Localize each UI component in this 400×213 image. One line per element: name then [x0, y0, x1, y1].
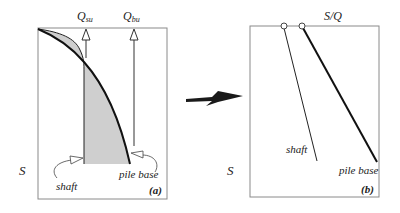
panel-b-tag: (b)	[361, 183, 374, 196]
panel-b: S/Q S shaft pile base (b)	[227, 9, 379, 197]
panel-a-axis-label: S	[19, 163, 26, 178]
shaft-callout-arrow-icon	[70, 156, 83, 164]
shaft-line-label: shaft	[286, 143, 308, 155]
panel-a-tag: (a)	[149, 184, 162, 197]
diagram-canvas: Qsu Qbu S shaft pile base (a) S/Q S	[0, 0, 400, 213]
q-su-label: Qsu	[77, 9, 93, 24]
pile-base-label: pile base	[118, 168, 159, 180]
panel-a: Qsu Qbu S shaft pile base (a)	[19, 9, 167, 199]
q-bu-arrow-head-icon	[130, 29, 138, 40]
panel-b-axis-label: S	[227, 163, 234, 178]
shaft-intercept-marker	[281, 23, 287, 29]
transform-arrow-icon	[186, 91, 243, 106]
shaft-label: shaft	[56, 180, 78, 192]
pile-base-line-label: pile base	[338, 164, 379, 176]
pile-base-callout-arrow-icon	[131, 151, 143, 158]
shaft-linear-line	[284, 28, 317, 161]
s-over-q-label: S/Q	[324, 9, 342, 23]
q-su-arrow-head-icon	[82, 29, 90, 40]
base-shaded-region	[84, 62, 130, 164]
pile-base-linear-line	[303, 28, 377, 162]
shaft-callout-line	[54, 160, 72, 178]
q-bu-label: Qbu	[123, 9, 140, 24]
pile-base-intercept-marker	[299, 23, 305, 29]
